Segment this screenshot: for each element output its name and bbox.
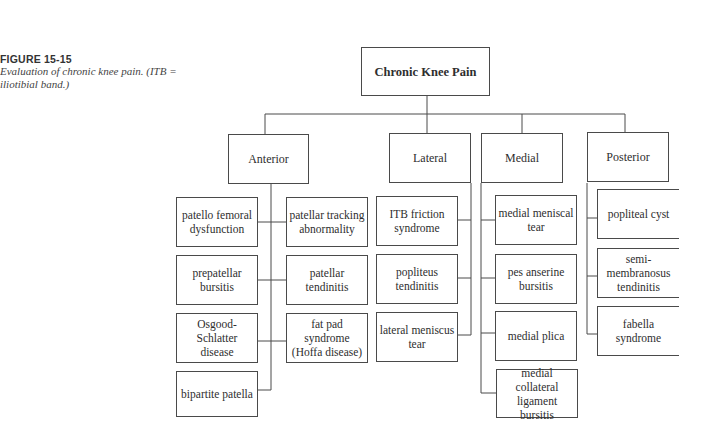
item-popliteal-cyst: popliteal cyst [597, 189, 679, 239]
item-fat-pad-syndrome: fat pad syndrome (Hoffa disease) [286, 313, 368, 363]
item-pes-anserine-bursitis: pes anserine bursitis [495, 254, 577, 304]
item-medial-meniscal-tear: medial meniscal tear [495, 195, 577, 245]
item-medial-collateral-ligament-bursitis: medial collateral ligament bursitis [496, 369, 578, 418]
item-patello-femoral-dysfunction: patello femoral dysfunction [176, 197, 258, 247]
item-prepatellar-bursitis: prepatellar bursitis [176, 255, 258, 305]
item-itb-friction-syndrome: ITB friction syndrome [376, 196, 458, 246]
root-label: Chronic Knee Pain [375, 65, 477, 79]
category-medial: Medial [481, 133, 563, 183]
item-lateral-meniscus-tear: lateral meniscus tear [376, 312, 458, 362]
category-posterior: Posterior [587, 132, 669, 182]
category-anterior: Anterior [228, 134, 309, 184]
root-node: Chronic Knee Pain [361, 47, 490, 96]
category-lateral: Lateral [389, 133, 471, 183]
item-semimembranosus-tendinitis: semi-membranosus tendinitis [597, 248, 679, 298]
item-patellar-tracking-abnormality: patellar tracking abnormality [286, 197, 368, 247]
item-medial-plica: medial plica [495, 311, 577, 361]
item-osgood-schlatter-disease: Osgood-Schlatter disease [176, 313, 258, 363]
item-popliteus-tendinitis: popliteus tendinitis [376, 254, 458, 304]
item-fabella-syndrome: fabella syndrome [597, 306, 679, 356]
item-bipartite-patella: bipartite patella [176, 371, 258, 417]
item-patellar-tendinitis: patellar tendinitis [286, 255, 368, 305]
